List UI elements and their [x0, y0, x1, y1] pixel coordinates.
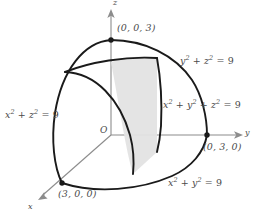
- eq-xy-eq: =: [202, 177, 216, 188]
- y-intercept-dot: [204, 132, 209, 137]
- z-axis-label: z: [113, 0, 117, 7]
- equation-label-yz-circle: y2 + z2 = 9: [180, 55, 234, 66]
- math-figure: z y x O (0, 0, 3) (0, 3, 0) (3, 0, 0) y2…: [0, 0, 257, 219]
- equation-label-sphere: x2 + y2 + z2 = 9: [163, 99, 241, 110]
- eq-yz-eq: =: [213, 55, 227, 66]
- y-axis-label: y: [245, 129, 250, 137]
- sphere-meridian-arc-right: [157, 58, 161, 152]
- eq-sph-eq: =: [220, 99, 234, 110]
- point-label-y-intercept: (0, 3, 0): [203, 142, 242, 152]
- eq-yz-value: 9: [228, 55, 234, 66]
- point-label-x-intercept: (3, 0, 0): [58, 189, 97, 199]
- eq-sph-plus1: +: [173, 99, 187, 110]
- x-axis-label: x: [28, 203, 33, 211]
- z-intercept-dot: [108, 37, 113, 42]
- point-label-z-intercept: (0, 0, 3): [117, 23, 156, 33]
- eq-xz-plus: +: [15, 109, 29, 120]
- eq-sph-plus2: +: [197, 99, 211, 110]
- eq-xy-plus: +: [178, 177, 192, 188]
- eq-yz-plus: +: [190, 55, 204, 66]
- eq-xz-value: 9: [53, 109, 59, 120]
- eq-xy-value: 9: [216, 177, 222, 188]
- eq-xz-eq: =: [38, 109, 52, 120]
- x-axis-arrowhead: [38, 192, 48, 200]
- eq-sph-value: 9: [235, 99, 241, 110]
- x-intercept-dot: [59, 180, 64, 185]
- equation-label-xy-circle: x2 + y2 = 9: [168, 177, 222, 188]
- origin-label: O: [100, 126, 107, 135]
- equation-label-xz-circle: x2 + z2 = 9: [5, 109, 59, 120]
